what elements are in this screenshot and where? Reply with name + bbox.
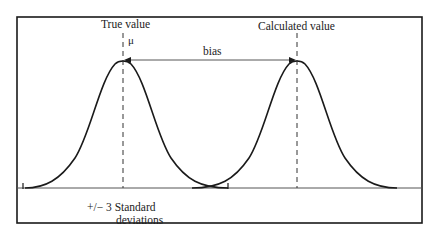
std-dev-label-line1: +/− 3 Standard [87,201,156,214]
calculated-value-label: Calculated value [258,20,335,33]
bias-distribution-diagram [0,0,432,239]
true-value-label: True value [101,18,150,31]
std-dev-label-line2: deviations [116,214,163,227]
bias-label: bias [203,45,222,58]
true-value-curve [25,61,228,188]
mu-symbol-label: μ [128,34,134,47]
calculated-value-curve [192,61,397,188]
